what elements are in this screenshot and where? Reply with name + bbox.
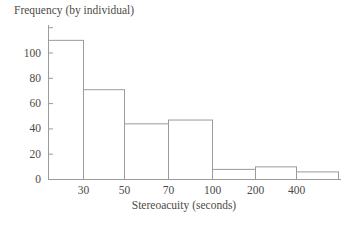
y-tick-label: 60 [30,97,42,109]
histogram-plot: 020406080100305070100200400 [0,0,352,225]
y-tick-label: 40 [30,122,42,134]
x-tick-label: 30 [78,184,90,196]
histogram-bar [297,172,339,180]
x-tick-label: 70 [163,184,175,196]
x-tick-label: 50 [119,184,131,196]
y-tick-label: 0 [35,173,41,185]
histogram-bar [169,120,213,179]
histogram-bar [84,90,125,180]
histogram-bar [125,124,169,180]
x-tick-label: 100 [204,184,222,196]
y-tick-label: 20 [30,148,42,160]
y-tick-label: 100 [24,47,42,59]
x-tick-label: 200 [247,184,265,196]
y-tick-label: 80 [30,72,42,84]
x-tick-label: 400 [288,184,306,196]
histogram-bar [49,40,84,179]
histogram-bar [256,167,297,180]
histogram-figure: Frequency (by individual) 02040608010030… [0,0,352,225]
histogram-bar [213,169,256,179]
x-axis-title: Stereoacuity (seconds) [48,199,320,211]
